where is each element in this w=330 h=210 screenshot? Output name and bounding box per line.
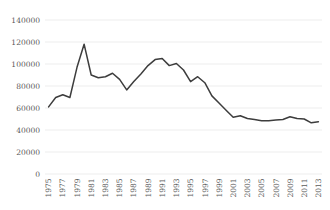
x-axis-labels: 1975197719791981198319851987198919911993… xyxy=(44,178,323,197)
y-tick-label: 40000 xyxy=(16,126,40,135)
x-tick-label: 1995 xyxy=(186,178,195,197)
x-tick-label: 1979 xyxy=(73,178,82,197)
x-tick-label: 2013 xyxy=(314,178,323,197)
x-tick-label: 1981 xyxy=(87,179,96,198)
x-tick-label: 1985 xyxy=(115,178,124,197)
line-chart-figure: 020000400006000080000100000120000140000 … xyxy=(0,0,330,210)
x-tick-label: 1987 xyxy=(129,178,138,197)
x-tick-label: 1975 xyxy=(44,178,53,197)
x-tick-label: 1991 xyxy=(158,179,167,198)
line-chart: 020000400006000080000100000120000140000 … xyxy=(0,0,330,210)
x-tick-label: 2009 xyxy=(286,178,295,197)
y-tick-label: 20000 xyxy=(16,148,40,157)
y-tick-label: 60000 xyxy=(16,104,40,113)
y-tick-label: 0 xyxy=(35,170,40,179)
y-tick-label: 100000 xyxy=(11,60,40,69)
x-tick-label: 1983 xyxy=(101,178,110,197)
x-tick-label: 1977 xyxy=(58,178,67,197)
x-tick-label: 2001 xyxy=(229,179,238,198)
y-tick-label: 80000 xyxy=(16,82,40,91)
x-tick-label: 2003 xyxy=(243,178,252,197)
x-tick-label: 2011 xyxy=(300,179,309,198)
data-series-line xyxy=(49,44,319,123)
x-tick-label: 1989 xyxy=(144,178,153,197)
y-axis-labels: 020000400006000080000100000120000140000 xyxy=(11,16,40,179)
x-tick-label: 1993 xyxy=(172,178,181,197)
y-tick-label: 120000 xyxy=(11,38,40,47)
x-tick-label: 1999 xyxy=(215,178,224,197)
gridlines xyxy=(45,20,322,174)
x-tick-label: 1997 xyxy=(201,178,210,197)
x-tick-label: 2005 xyxy=(257,178,266,197)
x-tick-label: 2007 xyxy=(272,178,281,197)
y-tick-label: 140000 xyxy=(11,16,40,25)
